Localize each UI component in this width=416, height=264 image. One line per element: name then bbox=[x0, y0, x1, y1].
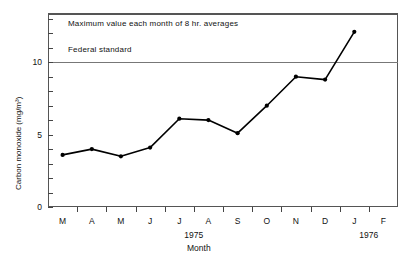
data-point bbox=[61, 153, 65, 157]
data-point bbox=[119, 154, 123, 158]
data-series-layer bbox=[0, 0, 416, 264]
data-point bbox=[90, 147, 94, 151]
data-point bbox=[265, 104, 269, 108]
data-point bbox=[148, 146, 152, 150]
data-point bbox=[177, 117, 181, 121]
series-markers bbox=[61, 30, 357, 159]
data-point bbox=[352, 30, 356, 34]
series-line bbox=[63, 32, 355, 157]
data-point bbox=[294, 75, 298, 79]
chart-container: Maximum value each month of 8 hr. averag… bbox=[0, 0, 416, 264]
data-point bbox=[236, 131, 240, 135]
data-point bbox=[206, 118, 210, 122]
data-point bbox=[323, 78, 327, 82]
